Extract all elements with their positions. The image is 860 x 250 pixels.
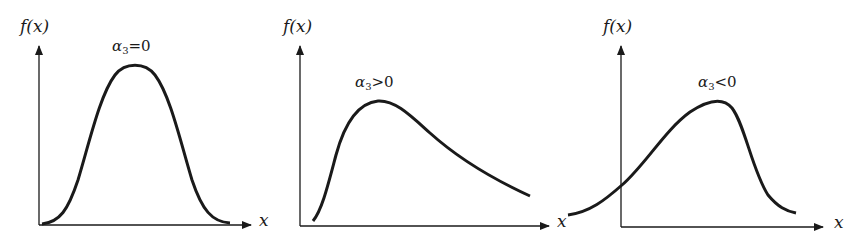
alpha-symbol: α <box>112 37 122 55</box>
value: 0 <box>384 73 394 91</box>
x-axis-label: x <box>834 214 844 231</box>
panel-positive-skew <box>300 46 549 226</box>
y-axis-label: f(x) <box>283 18 312 35</box>
skewness-condition-label: α3=0 <box>112 39 151 56</box>
panel-symmetric <box>39 46 251 225</box>
skewness-condition-label: α3>0 <box>355 75 394 92</box>
relation: < <box>715 73 728 91</box>
skewness-condition-label: α3<0 <box>698 75 737 92</box>
panel-negative-skew <box>568 46 823 227</box>
relation: > <box>372 73 385 91</box>
relation: = <box>129 37 142 55</box>
skewness-figure: f(x) x α3=0 f(x) x α3>0 f(x) x α3<0 <box>0 0 860 250</box>
density-curve <box>568 101 796 215</box>
x-axis-label: x <box>259 212 269 229</box>
y-axis-label: f(x) <box>603 18 632 35</box>
value: 0 <box>727 73 737 91</box>
alpha-symbol: α <box>355 73 365 91</box>
density-curve <box>313 101 530 221</box>
alpha-symbol: α <box>698 73 708 91</box>
y-axis-label: f(x) <box>20 18 49 35</box>
x-axis-label: x <box>557 213 567 230</box>
value: 0 <box>141 37 151 55</box>
density-curve <box>42 65 230 224</box>
